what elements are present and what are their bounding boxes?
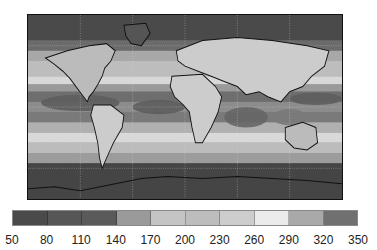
colorbar-segment [289, 211, 324, 225]
colorbar-tick-label: 230 [210, 233, 230, 247]
colorbar-tick-label: 320 [313, 233, 333, 247]
world-map [27, 14, 343, 200]
colorbar-segment [117, 211, 152, 225]
colorbar-tick-label: 80 [40, 233, 53, 247]
colorbar-segment [13, 211, 48, 225]
colorbar-segment [220, 211, 255, 225]
colorbar-segment [255, 211, 290, 225]
colorbar-tick-label: 200 [175, 233, 195, 247]
colorbar-tick-label: 50 [5, 233, 18, 247]
colorbar-labels: 5080110140170200230260290320350 [0, 233, 377, 249]
colorbar [12, 210, 358, 226]
colorbar-tick-label: 140 [106, 233, 126, 247]
colorbar-segment [82, 211, 117, 225]
colorbar-tick-label: 170 [140, 233, 160, 247]
colorbar-tick-label: 350 [348, 233, 368, 247]
map-svg [28, 15, 342, 199]
colorbar-segment [151, 211, 186, 225]
colorbar-segment [186, 211, 221, 225]
colorbar-tick-label: 260 [244, 233, 264, 247]
colorbar-tick-label: 110 [72, 233, 91, 247]
colorbar-segment [324, 211, 358, 225]
colorbar-segment [48, 211, 83, 225]
colorbar-tick-label: 290 [279, 233, 299, 247]
